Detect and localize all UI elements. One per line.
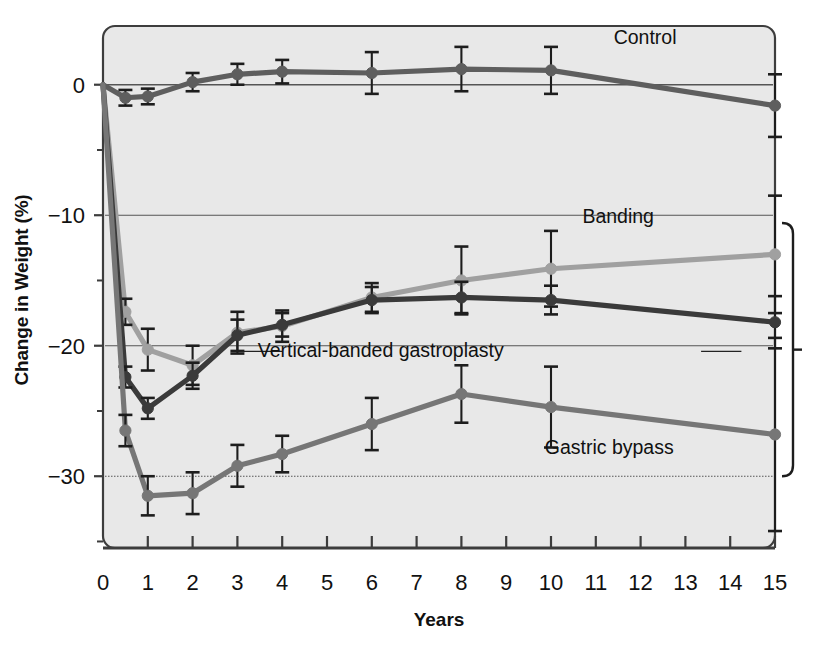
series-label: Banding bbox=[582, 205, 654, 227]
y-axis-title: Change in Weight (%) bbox=[11, 195, 32, 386]
data-point bbox=[366, 418, 377, 429]
data-point bbox=[277, 448, 288, 459]
data-point bbox=[232, 330, 243, 341]
data-point bbox=[456, 292, 467, 303]
y-tick-label: −20 bbox=[48, 334, 85, 359]
series-label: Control bbox=[614, 26, 677, 48]
weight-change-line-chart: 0123456789101112131415 0−10−20−30 Contro… bbox=[0, 0, 814, 659]
y-tick-label: −10 bbox=[48, 203, 85, 228]
data-point bbox=[232, 460, 243, 471]
data-point bbox=[232, 69, 243, 80]
data-point bbox=[277, 66, 288, 77]
data-point bbox=[366, 67, 377, 78]
x-tick-label: 3 bbox=[231, 570, 243, 595]
data-point bbox=[187, 488, 198, 499]
x-tick-label: 2 bbox=[186, 570, 198, 595]
x-tick-label: 13 bbox=[673, 570, 697, 595]
x-tick-label: 7 bbox=[410, 570, 422, 595]
data-point bbox=[366, 294, 377, 305]
data-point bbox=[769, 249, 780, 260]
y-axis-tick-labels: 0−10−20−30 bbox=[48, 73, 85, 490]
series-label: Gastric bypass bbox=[545, 436, 674, 458]
chart-figure: 0123456789101112131415 0−10−20−30 Contro… bbox=[0, 0, 814, 659]
x-tick-label: 12 bbox=[628, 570, 652, 595]
data-point bbox=[187, 77, 198, 88]
data-point bbox=[769, 429, 780, 440]
x-axis-title: Years bbox=[414, 609, 465, 630]
y-tick-label: −30 bbox=[48, 464, 85, 489]
x-tick-label: 1 bbox=[142, 570, 154, 595]
y-tick-label: 0 bbox=[73, 73, 85, 98]
data-point bbox=[120, 425, 131, 436]
x-tick-label: 11 bbox=[584, 570, 607, 595]
x-tick-label: 8 bbox=[455, 570, 467, 595]
x-tick-label: 0 bbox=[97, 570, 109, 595]
bracket-path bbox=[782, 223, 793, 476]
data-point bbox=[120, 92, 131, 103]
data-point bbox=[545, 401, 556, 412]
data-point bbox=[142, 91, 153, 102]
data-point bbox=[545, 65, 556, 76]
data-point bbox=[142, 344, 153, 355]
data-point bbox=[277, 319, 288, 330]
right-bracket-annotation bbox=[782, 223, 802, 476]
data-point bbox=[142, 490, 153, 501]
x-tick-label: 10 bbox=[539, 570, 563, 595]
data-point bbox=[456, 63, 467, 74]
x-tick-label: 6 bbox=[366, 570, 378, 595]
data-point bbox=[545, 263, 556, 274]
data-point bbox=[769, 100, 780, 111]
data-point bbox=[187, 370, 198, 381]
x-axis-tick-labels: 0123456789101112131415 bbox=[97, 570, 787, 595]
data-point bbox=[545, 294, 556, 305]
x-tick-label: 4 bbox=[276, 570, 288, 595]
data-point bbox=[142, 403, 153, 414]
x-tick-label: 15 bbox=[763, 570, 787, 595]
x-tick-label: 5 bbox=[321, 570, 333, 595]
x-tick-label: 14 bbox=[718, 570, 742, 595]
data-point bbox=[769, 317, 780, 328]
x-tick-label: 9 bbox=[500, 570, 512, 595]
data-point bbox=[456, 388, 467, 399]
series-label: Vertical-banded gastroplasty bbox=[258, 339, 504, 361]
